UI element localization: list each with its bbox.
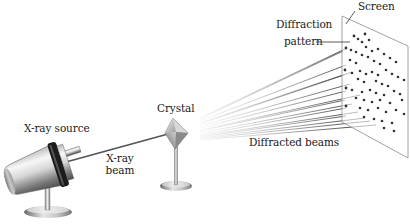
- label-screen: Screen: [358, 0, 395, 12]
- label-diffracted-beams: Diffracted beams: [249, 136, 339, 148]
- crystal-stand: [160, 146, 192, 191]
- label-crystal: Crystal: [157, 102, 195, 114]
- label-xray-source: X-ray source: [24, 122, 90, 134]
- label-xray-beam-line2: beam: [104, 164, 136, 176]
- screen: [342, 16, 408, 158]
- xray-diffraction-diagram: X-ray source X-ray beam Crystal Diffract…: [0, 0, 410, 224]
- crystal: [165, 118, 188, 149]
- label-diffraction-pattern-line2: pattern: [284, 35, 323, 47]
- label-xray-beam-line1: X-ray: [104, 152, 136, 164]
- diagram-canvas: [0, 0, 410, 224]
- label-diffraction-pattern-line1: Diffraction: [276, 18, 332, 30]
